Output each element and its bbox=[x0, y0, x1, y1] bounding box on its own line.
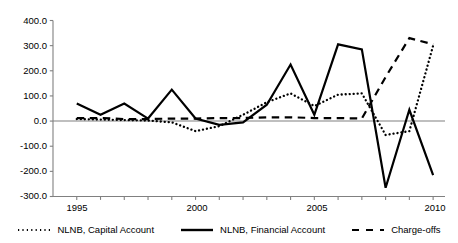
legend-swatch-dotted bbox=[17, 225, 51, 235]
legend-item-capital-account: NLNB, Capital Account bbox=[17, 225, 154, 235]
chart-legend: NLNB, Capital Account NLNB, Financial Ac… bbox=[0, 221, 458, 239]
legend-swatch-solid bbox=[180, 225, 214, 235]
legend-label: NLNB, Capital Account bbox=[57, 225, 154, 235]
data-series bbox=[77, 38, 433, 188]
legend-item-charge-offs: Charge-offs bbox=[351, 225, 440, 235]
legend-label: Charge-offs bbox=[391, 225, 440, 235]
series-line-nlnb-financial-account bbox=[77, 44, 433, 187]
legend-item-financial-account: NLNB, Financial Account bbox=[180, 225, 325, 235]
legend-label: NLNB, Financial Account bbox=[220, 225, 325, 235]
legend-swatch-dashed bbox=[351, 225, 385, 235]
chart-figure: 400.0 300.0 200.0 100.0 0.0 -100.0 -200.… bbox=[0, 0, 458, 243]
plot-canvas bbox=[0, 0, 458, 243]
